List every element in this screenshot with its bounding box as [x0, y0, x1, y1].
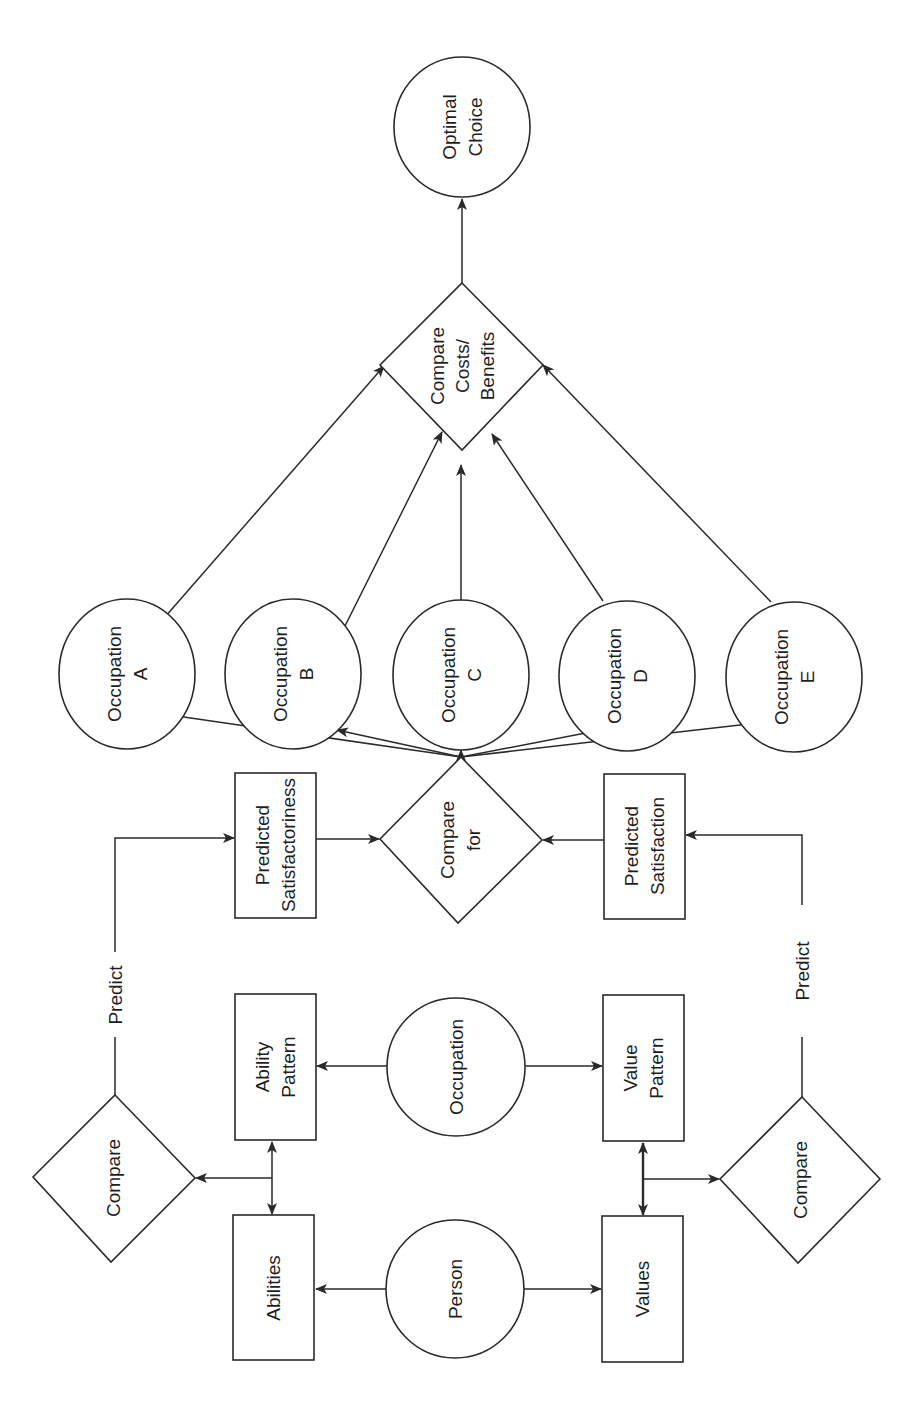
node-occupation-a: Occupation A: [59, 599, 195, 749]
predicted-satisfaction-line1: Predicted: [621, 806, 642, 886]
node-compare-left: Compare: [33, 1095, 195, 1262]
occupation-a-line1: Occupation: [104, 626, 125, 722]
node-predicted-satisfaction: Predicted Satisfaction: [604, 774, 685, 919]
node-person: Person: [386, 1220, 524, 1358]
node-optimal-choice: Optimal Choice: [394, 57, 530, 197]
node-occupation: Occupation: [387, 998, 525, 1136]
compare-left-label: Compare: [103, 1139, 124, 1217]
edge-predict-left-upper: [115, 838, 234, 952]
predict-label-left: Predict: [105, 965, 126, 1025]
predict-label-right: Predict: [792, 941, 813, 1001]
compare-for-line1: Compare: [437, 801, 458, 879]
value-pattern-line2: Pattern: [646, 1037, 667, 1098]
edge-occ-d-compare-costs: [492, 434, 603, 601]
occupation-d-line1: Occupation: [604, 628, 625, 724]
node-compare-right: Compare: [720, 1097, 880, 1263]
occupation-d-line2: D: [630, 669, 651, 683]
node-predicted-satisfactoriness: Predicted Satisfactoriness: [235, 773, 316, 918]
compare-costs-line3: Benefits: [477, 332, 498, 401]
optimal-choice-line1: Optimal: [439, 94, 460, 159]
compare-right-label: Compare: [790, 1141, 811, 1219]
values-label: Values: [632, 1261, 653, 1318]
node-values: Values: [602, 1216, 683, 1362]
compare-costs-line1: Compare: [427, 327, 448, 405]
occupation-b-line2: B: [296, 668, 317, 681]
occupation-label: Occupation: [446, 1019, 467, 1115]
node-occupation-b: Occupation B: [225, 599, 361, 749]
optimal-choice-line2: Choice: [465, 97, 486, 156]
person-label: Person: [445, 1259, 466, 1319]
value-pattern-line1: Value: [620, 1044, 641, 1091]
compare-costs-line2: Costs/: [452, 338, 473, 393]
node-occupation-c: Occupation C: [393, 600, 529, 750]
edge-occ-e-compare-costs: [543, 365, 771, 602]
node-ability-pattern: Ability Pattern: [235, 994, 316, 1140]
ability-pattern-line2: Pattern: [278, 1036, 299, 1097]
edge-occ-b-compare-costs: [344, 432, 442, 628]
node-compare-costs-benefits: Compare Costs/ Benefits: [380, 283, 543, 450]
node-abilities: Abilities: [233, 1215, 314, 1360]
occupation-b-line1: Occupation: [270, 626, 291, 722]
flowchart-canvas: Optimal Choice Compare Costs/ Benefits O…: [0, 0, 910, 1422]
abilities-label: Abilities: [263, 1255, 284, 1320]
predicted-satisfactoriness-line2: Satisfactoriness: [278, 778, 299, 912]
ability-pattern-line1: Ability: [252, 1041, 273, 1092]
occupation-e-line1: Occupation: [771, 629, 792, 725]
edge-occ-a-compare-costs: [165, 366, 384, 617]
occupation-a-line2: A: [130, 667, 151, 680]
edge-predict-right-upper: [686, 835, 802, 905]
node-occupation-e: Occupation E: [726, 602, 862, 752]
compare-for-line2: for: [463, 828, 484, 851]
node-compare-for: Compare for: [380, 757, 542, 923]
occupation-c-line2: C: [464, 668, 485, 682]
occupation-e-line2: E: [797, 671, 818, 684]
node-value-pattern: Value Pattern: [603, 995, 684, 1141]
predicted-satisfactoriness-line1: Predicted: [252, 805, 273, 885]
predicted-satisfaction-line2: Satisfaction: [647, 797, 668, 895]
node-occupation-d: Occupation D: [559, 601, 695, 751]
occupation-c-line1: Occupation: [438, 627, 459, 723]
